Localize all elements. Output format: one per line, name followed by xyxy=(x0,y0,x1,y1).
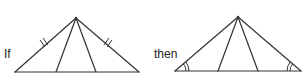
left-triangle: If xyxy=(4,17,139,72)
right-apex-dot xyxy=(237,16,240,19)
isosceles-triangle-diagram: If then xyxy=(0,0,308,84)
then-label: then xyxy=(154,47,177,61)
right-triangle: then xyxy=(154,16,301,71)
left-leg-double-tick-icon xyxy=(40,38,48,47)
left-leg-left xyxy=(15,18,76,72)
left-apex-dot xyxy=(75,17,78,20)
right-leg-double-tick-icon xyxy=(104,38,112,47)
if-label: If xyxy=(4,47,11,61)
